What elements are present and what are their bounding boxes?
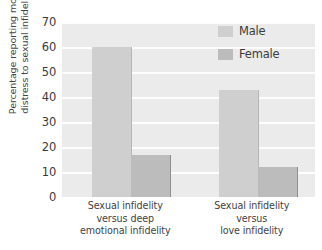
x-category-label-2: Sexual infidelity versus love infidelity: [189, 200, 316, 238]
y-tick-label-50: 50: [26, 65, 56, 79]
y-tick-label-40: 40: [26, 90, 56, 104]
bar-male-group-1: [92, 47, 132, 197]
legend-label-male: Male: [239, 24, 265, 38]
y-tick-label-30: 30: [26, 115, 56, 129]
x-axis-category-labels: Sexual infidelity versus deep emotional …: [62, 200, 315, 238]
y-tick-label-60: 60: [26, 40, 56, 54]
y-axis-tick-labels: 706050403020100: [26, 0, 56, 250]
y-tick-label-20: 20: [26, 140, 56, 154]
legend-swatch-male-icon: [218, 26, 233, 37]
y-tick-label-0: 0: [26, 190, 56, 204]
bar-female-group-1: [131, 155, 171, 198]
legend-item-female[interactable]: Female: [218, 47, 279, 61]
bar-chart-figure: Percentage reporting more distress to se…: [0, 0, 322, 250]
legend: MaleFemale: [218, 24, 279, 61]
legend-label-female: Female: [239, 47, 279, 61]
legend-item-male[interactable]: Male: [218, 24, 279, 38]
y-tick-label-10: 10: [26, 165, 56, 179]
y-tick-label-70: 70: [26, 15, 56, 29]
bar-male-group-2: [219, 90, 259, 198]
x-category-label-1: Sexual infidelity versus deep emotional …: [62, 200, 189, 238]
legend-swatch-female-icon: [218, 49, 233, 60]
bar-female-group-2: [258, 167, 298, 197]
